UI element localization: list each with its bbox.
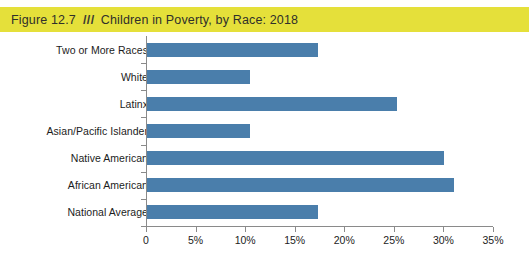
y-axis-line bbox=[146, 36, 147, 226]
bar bbox=[147, 124, 250, 138]
x-axis-tick-label: 20% bbox=[334, 234, 355, 246]
y-axis-tick bbox=[141, 145, 146, 146]
bar-row: White bbox=[0, 63, 529, 90]
bar bbox=[147, 151, 444, 165]
x-axis-tick bbox=[196, 227, 197, 232]
figure-container: Figure 12.7 /// Children in Poverty, by … bbox=[0, 0, 529, 258]
bar bbox=[147, 43, 318, 57]
figure-title-band: Figure 12.7 /// Children in Poverty, by … bbox=[0, 7, 529, 32]
x-axis-tick-label: 10% bbox=[235, 234, 256, 246]
x-axis-tick bbox=[443, 227, 444, 232]
chart-plot-area: Two or More RacesWhiteLatinxAsian/Pacifi… bbox=[0, 36, 529, 258]
x-axis-line bbox=[146, 226, 493, 227]
bar-row: National Average bbox=[0, 199, 529, 226]
bar-row: Two or More Races bbox=[0, 36, 529, 63]
bar bbox=[147, 178, 454, 192]
category-label: Two or More Races bbox=[56, 44, 148, 56]
x-axis-tick-label: 35% bbox=[482, 234, 503, 246]
y-axis-tick bbox=[141, 63, 146, 64]
x-axis-tick-label: 15% bbox=[284, 234, 305, 246]
bar-row: Latinx bbox=[0, 90, 529, 117]
y-axis-tick bbox=[141, 199, 146, 200]
x-axis-tick bbox=[394, 227, 395, 232]
bar bbox=[147, 205, 318, 219]
x-axis-tick-label: 25% bbox=[383, 234, 404, 246]
category-label: Native American bbox=[71, 152, 148, 164]
y-axis-tick bbox=[141, 90, 146, 91]
x-axis-tick bbox=[344, 227, 345, 232]
bar-row: Asian/Pacific Islander bbox=[0, 117, 529, 144]
x-axis-tick bbox=[295, 227, 296, 232]
y-axis-tick bbox=[141, 172, 146, 173]
x-axis-tick bbox=[245, 227, 246, 232]
bar-row: Native American bbox=[0, 145, 529, 172]
title-separator-slashes: /// bbox=[83, 13, 95, 27]
y-axis-tick bbox=[141, 117, 146, 118]
y-axis-tick bbox=[141, 226, 146, 227]
category-label: Latinx bbox=[120, 98, 148, 110]
bar-row: African American bbox=[0, 172, 529, 199]
x-axis-tick-label: 0 bbox=[143, 234, 149, 246]
x-axis-tick bbox=[493, 227, 494, 232]
bar-rows-container: Two or More RacesWhiteLatinxAsian/Pacifi… bbox=[0, 36, 529, 226]
category-label: African American bbox=[68, 179, 148, 191]
figure-title-text: Children in Poverty, by Race: 2018 bbox=[101, 13, 298, 27]
category-label: Asian/Pacific Islander bbox=[47, 125, 148, 137]
figure-number-label: Figure 12.7 bbox=[11, 13, 76, 27]
bar bbox=[147, 70, 250, 84]
x-axis-tick bbox=[146, 227, 147, 232]
category-label: National Average bbox=[67, 206, 148, 218]
bar bbox=[147, 97, 397, 111]
x-axis-tick-label: 5% bbox=[188, 234, 203, 246]
category-label: White bbox=[121, 71, 148, 83]
x-axis-tick-label: 30% bbox=[433, 234, 454, 246]
